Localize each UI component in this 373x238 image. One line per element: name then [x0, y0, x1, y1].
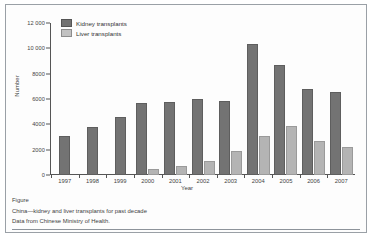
- x-tick-label-2006: 2006: [307, 178, 320, 184]
- bar-kidney-2002: [192, 99, 203, 175]
- x-tick-label-2002: 2002: [197, 178, 210, 184]
- bar-kidney-2004: [247, 44, 258, 175]
- y-tick-label: 4000: [32, 121, 45, 127]
- figure-caption: Figure China—kidney and liver transplant…: [12, 197, 362, 229]
- x-tick-label-2003: 2003: [224, 178, 237, 184]
- x-tick-mark: [327, 175, 328, 178]
- x-tick-mark: [300, 175, 301, 178]
- x-tick-label-1997: 1997: [58, 178, 71, 184]
- y-axis-title: Number: [14, 61, 20, 111]
- x-tick-label-2000: 2000: [141, 178, 154, 184]
- x-tick-label-2005: 2005: [279, 178, 292, 184]
- bar-liver-2004: [259, 136, 270, 175]
- chart-region: 0200040006000800010 00012 000 Number 199…: [6, 5, 368, 193]
- bar-kidney-1998: [87, 127, 98, 175]
- y-tick-label: 2000: [32, 147, 45, 153]
- x-tick-mark: [217, 175, 218, 178]
- legend-item: Liver transplants: [61, 29, 127, 37]
- bar-group: [244, 23, 272, 175]
- y-tick-label: 6000: [32, 96, 45, 102]
- chart-legend: Kidney transplantsLiver transplants: [61, 19, 127, 39]
- x-tick-mark: [162, 175, 163, 178]
- x-tick-label-2007: 2007: [335, 178, 348, 184]
- bar-group: [272, 23, 300, 175]
- x-tick-label-2004: 2004: [252, 178, 265, 184]
- legend-item: Kidney transplants: [61, 19, 127, 27]
- x-tick-label-2001: 2001: [169, 178, 182, 184]
- caption-label: Figure: [12, 197, 362, 203]
- x-tick-mark: [51, 175, 52, 178]
- y-tick-label: 8000: [32, 71, 45, 77]
- y-tick-label: 12 000: [27, 20, 45, 26]
- y-axis-ticks: 0200040006000800010 00012 000: [6, 23, 50, 175]
- bar-group: [189, 23, 217, 175]
- bar-liver-2002: [204, 161, 215, 175]
- bar-group: [300, 23, 328, 175]
- bar-liver-2003: [231, 151, 242, 175]
- x-tick-mark: [134, 175, 135, 178]
- bar-kidney-1997: [59, 136, 70, 175]
- bar-kidney-2006: [302, 89, 313, 175]
- bar-group: [79, 23, 107, 175]
- bar-kidney-1999: [115, 117, 126, 175]
- x-tick-mark: [106, 175, 107, 178]
- y-tick-label: 0: [42, 172, 45, 178]
- bar-liver-2007: [342, 147, 353, 175]
- caption-title: China—kidney and liver transplants for p…: [12, 208, 362, 214]
- bar-kidney-2003: [219, 101, 230, 175]
- x-tick-mark: [189, 175, 190, 178]
- x-tick-mark: [244, 175, 245, 178]
- bar-group: [106, 23, 134, 175]
- bar-group: [217, 23, 245, 175]
- bar-group: [327, 23, 355, 175]
- x-tick-mark: [272, 175, 273, 178]
- bar-group: [134, 23, 162, 175]
- legend-swatch-icon: [61, 29, 72, 37]
- x-tick-label-1998: 1998: [86, 178, 99, 184]
- bar-kidney-2005: [274, 65, 285, 175]
- x-tick-mark: [79, 175, 80, 178]
- caption-divider: [12, 229, 360, 230]
- bar-kidney-2001: [164, 102, 175, 175]
- caption-source: Data from Chinese Ministry of Health.: [12, 218, 362, 224]
- legend-label: Kidney transplants: [76, 20, 127, 27]
- legend-swatch-icon: [61, 19, 72, 27]
- bar-series-container: [51, 23, 355, 175]
- x-tick-label-1999: 1999: [114, 178, 127, 184]
- bar-kidney-2007: [330, 92, 341, 175]
- figure-card: 0200040006000800010 00012 000 Number 199…: [5, 4, 367, 233]
- legend-label: Liver transplants: [76, 30, 121, 37]
- y-tick-label: 10 000: [27, 45, 45, 51]
- x-axis-title: Year: [6, 185, 368, 191]
- bar-liver-2001: [176, 166, 187, 175]
- bar-liver-2006: [314, 141, 325, 175]
- bar-group: [51, 23, 79, 175]
- bar-group: [162, 23, 190, 175]
- bar-liver-2005: [286, 126, 297, 175]
- bar-kidney-2000: [136, 103, 147, 175]
